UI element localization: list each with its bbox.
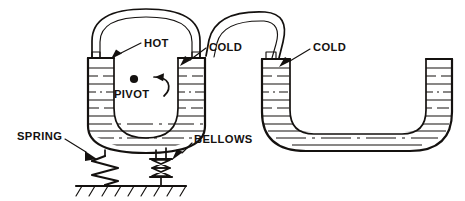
rotation-arrow-head <box>155 73 164 81</box>
left-pivoting-vessel <box>86 52 207 153</box>
cold-left-label-text: COLD <box>209 41 242 53</box>
liquid-hatch-cold-leg <box>171 68 207 116</box>
label-spring: SPRING <box>17 130 97 161</box>
liquid-hatch-bowl <box>86 124 207 145</box>
bellows <box>150 159 172 186</box>
spring <box>92 150 118 186</box>
cold-right-label-text: COLD <box>313 41 346 53</box>
label-hot: HOT <box>111 37 169 59</box>
label-cold-left: COLD <box>180 41 242 66</box>
spring-leader-line <box>65 139 86 152</box>
diagram-canvas: HOT COLD COLD PIVOT SPRING BELLOWS <box>0 0 465 201</box>
label-bellows: BELLOWS <box>172 133 253 160</box>
thermal-engine-diagram: HOT COLD COLD PIVOT SPRING BELLOWS <box>0 0 465 201</box>
pivot-dot <box>130 75 138 83</box>
right-vessel <box>260 52 454 151</box>
bellows-label-text: BELLOWS <box>194 133 253 145</box>
label-cold-right: COLD <box>279 41 346 67</box>
ground <box>76 186 186 196</box>
ground-hatching <box>76 186 186 196</box>
pivot-label-text: PIVOT <box>114 88 150 100</box>
cold-right-leader-line <box>290 49 310 61</box>
spring-label-text: SPRING <box>17 130 62 142</box>
hot-leader-arrowhead <box>111 50 122 60</box>
left-arch-tube <box>92 9 200 58</box>
hot-label-text: HOT <box>144 37 169 49</box>
hot-leader-line <box>121 43 141 53</box>
label-pivot: PIVOT <box>114 88 150 100</box>
